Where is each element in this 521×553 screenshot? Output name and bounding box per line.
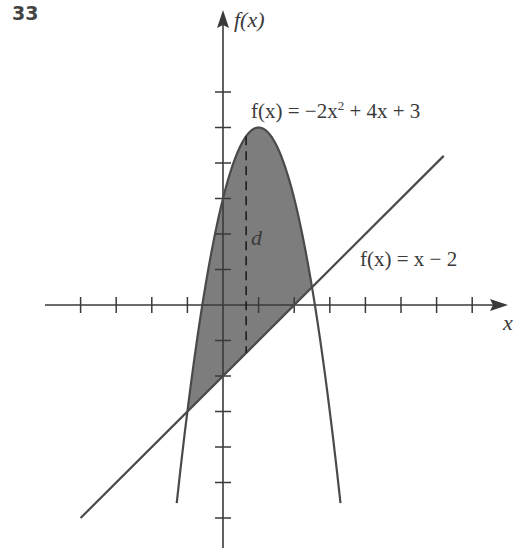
line-equation-label: f(x) = x − 2 xyxy=(360,247,457,271)
distance-label: d xyxy=(251,225,263,250)
x-axis-label: x xyxy=(502,310,513,335)
shaded-region xyxy=(187,128,312,412)
parabola-equation-label: f(x) = −2x2 + 4x + 3 xyxy=(251,98,420,123)
parabola-eq-prefix: f(x) = −2x xyxy=(251,99,338,123)
graph: f(x) x f(x) = −2x2 + 4x + 3 f(x) = x − 2… xyxy=(0,0,521,553)
y-axis-label: f(x) xyxy=(234,7,265,32)
parabola-eq-suffix: + 4x + 3 xyxy=(344,99,420,123)
shaded-area xyxy=(187,128,312,412)
